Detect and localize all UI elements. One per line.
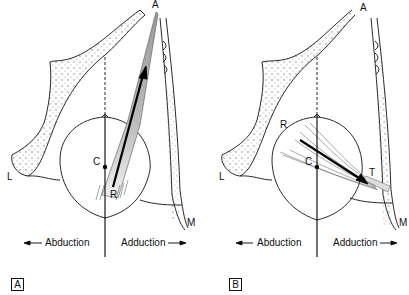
label-a-insertion: R <box>110 190 117 200</box>
label-a-adduction: Adduction <box>121 238 165 248</box>
diagram-canvas <box>0 0 409 295</box>
label-b-top: A <box>360 3 367 13</box>
panel-tag-a: A <box>11 278 24 291</box>
label-a-center: C <box>93 157 100 167</box>
label-b-center: C <box>305 157 312 167</box>
label-b-adduction: Adduction <box>333 238 377 248</box>
label-a-abduction: Abduction <box>45 238 89 248</box>
label-a-medial: M <box>187 218 195 228</box>
label-a-lateral: L <box>7 172 13 182</box>
panel-a <box>12 10 188 257</box>
label-b-lateral: L <box>219 172 225 182</box>
label-b-insertion: R <box>280 120 287 130</box>
label-b-tendon: T <box>369 168 375 178</box>
label-b-medial: M <box>399 218 407 228</box>
label-b-abduction: Abduction <box>257 238 301 248</box>
panel-b <box>222 10 399 257</box>
panel-tag-b: B <box>229 278 242 291</box>
label-a-top: A <box>152 0 159 10</box>
